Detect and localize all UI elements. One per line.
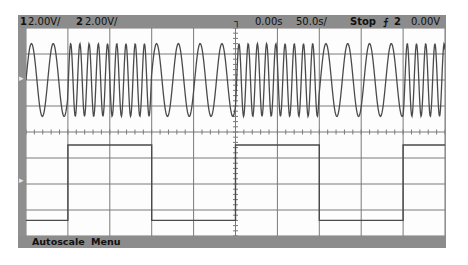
softkey-bar: Autoscale Menu (18, 236, 446, 248)
menu-button[interactable]: Menu (91, 236, 120, 248)
ch1-scale[interactable]: 2.00V/ (28, 15, 60, 28)
status-bar: 1 2.00V/ 2 2.00V/ ┐ 0.00s 50.0s/ Stop ⨍ … (18, 15, 446, 28)
ch1-label[interactable]: 1 (20, 15, 27, 28)
trigger-level[interactable]: 0.00V (411, 15, 440, 28)
trigger-edge-icon: ┐ (234, 15, 240, 28)
waveform-graticule (26, 28, 445, 236)
ch2-label[interactable]: 2 (76, 15, 83, 28)
autoscale-button[interactable]: Autoscale (32, 236, 85, 248)
waveform-plot (26, 28, 445, 236)
trigger-source[interactable]: 2 (394, 15, 401, 28)
oscilloscope-display: 1 2.00V/ 2 2.00V/ ┐ 0.00s 50.0s/ Stop ⨍ … (18, 15, 446, 248)
time-scale[interactable]: 50.0s/ (296, 15, 327, 28)
ch2-ground-marker[interactable]: ▸ (19, 175, 24, 185)
time-offset[interactable]: 0.00s (255, 15, 282, 28)
run-state[interactable]: Stop (350, 15, 376, 28)
trigger-slope-icon: ⨍ (383, 15, 389, 28)
ch2-scale[interactable]: 2.00V/ (85, 15, 117, 28)
ch1-ground-marker[interactable]: ▸ (19, 73, 24, 83)
